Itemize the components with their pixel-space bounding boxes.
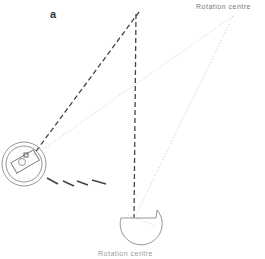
dashed-lines — [34, 12, 139, 218]
bottom-label: Rotation centre — [98, 250, 153, 257]
dotted-line-to-left — [42, 16, 233, 150]
dashed-line-vertical — [134, 14, 136, 218]
dotted-line-inner — [128, 215, 156, 226]
motion-dashes — [47, 178, 106, 186]
dashed-line-left — [34, 12, 139, 154]
dotted-line-to-bottom — [136, 16, 233, 215]
left-target — [2, 142, 46, 186]
diagram-canvas — [0, 0, 265, 259]
bottom-target — [120, 210, 162, 245]
dotted-lines — [42, 16, 233, 226]
